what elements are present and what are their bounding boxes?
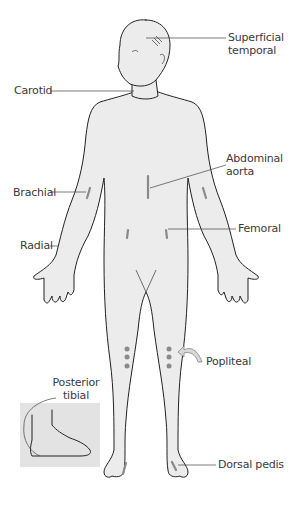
label-line: tibial (52, 389, 100, 402)
label-line: Superficial (228, 31, 284, 44)
head (118, 20, 170, 86)
pulse-popliteal-left-2 (125, 355, 130, 360)
pulse-popliteal-right-1 (167, 347, 172, 352)
label-popliteal: Popliteal (206, 355, 251, 368)
label-posterior-tibial: Posterior tibial (52, 376, 100, 402)
label-line: Posterior (52, 376, 100, 389)
label-abdominal-aorta: Abdominal aorta (226, 152, 283, 178)
label-superficial-temporal: Superficial temporal (228, 31, 284, 57)
body-outline-diagram (0, 0, 293, 505)
pulse-popliteal-right-2 (167, 355, 172, 360)
label-line: temporal (228, 44, 284, 57)
label-radial: Radial (20, 239, 53, 252)
pulse-femoral-left (127, 230, 128, 238)
pulse-femoral-right (166, 230, 167, 238)
pulse-popliteal-left-1 (125, 347, 130, 352)
label-carotid: Carotid (14, 84, 52, 97)
inset-foot (31, 410, 91, 456)
pulse-popliteal-right-3 (167, 364, 172, 369)
label-dorsal-pedis: Dorsal pedis (218, 458, 284, 471)
label-line: Abdominal (226, 152, 283, 165)
label-brachial: Brachial (13, 186, 56, 199)
body-silhouette (34, 85, 259, 477)
label-line: aorta (226, 165, 283, 178)
pulse-popliteal-left-3 (125, 364, 130, 369)
label-femoral: Femoral (238, 222, 281, 235)
